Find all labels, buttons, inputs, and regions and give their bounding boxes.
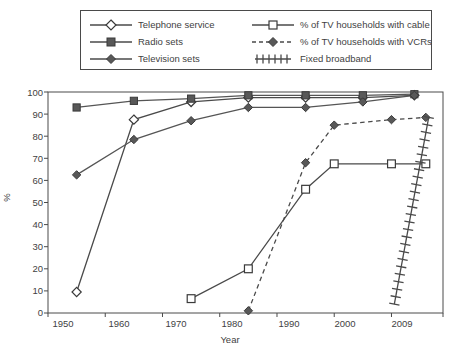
x-tick-label: 2009 (377, 318, 427, 329)
y-axis-label: % (1, 193, 12, 201)
y-tick-label: 0 (17, 307, 43, 318)
legend-column-right: % of TV households with cable % of TV ho… (251, 16, 432, 67)
y-tick-label: 90 (17, 109, 43, 120)
y-tick-label: 60 (17, 175, 43, 186)
y-tick-label: 10 (17, 285, 43, 296)
legend-label: % of TV households with cable (300, 19, 430, 30)
open-square-line-icon (251, 18, 295, 32)
y-tick-label: 30 (17, 241, 43, 252)
legend-label: Telephone service (138, 19, 215, 30)
legend-label: Radio sets (138, 36, 183, 47)
legend-item-radio-sets: Radio sets (89, 33, 215, 50)
x-tick-label: 1950 (38, 318, 88, 329)
open-diamond-line-icon (89, 18, 133, 32)
legend-item-telephone-service: Telephone service (89, 16, 215, 33)
filled-square-line-icon (89, 35, 133, 49)
chart-figure: Telephone service Radio sets (0, 0, 460, 356)
y-tick-label: 70 (17, 153, 43, 164)
x-tick-label: 1980 (207, 318, 257, 329)
y-tick-label: 100 (17, 87, 43, 98)
y-tick-label: 80 (17, 131, 43, 142)
y-tick-label: 50 (17, 197, 43, 208)
y-tick-label: 40 (17, 219, 43, 230)
legend-item-fixed-broadband: Fixed broadband (251, 50, 432, 67)
legend-item-cable: % of TV households with cable (251, 16, 432, 33)
filled-diamond-dashed-line-icon (251, 35, 295, 49)
x-tick-label: 1970 (151, 318, 201, 329)
legend-label: % of TV households with VCRs (300, 36, 432, 47)
filled-diamond-line-icon (89, 52, 133, 66)
x-tick-label: 1990 (264, 318, 314, 329)
y-tick-label: 20 (17, 263, 43, 274)
legend-column-left: Telephone service Radio sets (89, 16, 215, 67)
x-axis-label: Year (0, 334, 460, 345)
legend-label: Fixed broadband (300, 53, 371, 64)
cross-hatch-line-icon (251, 52, 295, 66)
legend-item-television-sets: Television sets (89, 50, 215, 67)
legend-item-vcr: % of TV households with VCRs (251, 33, 432, 50)
legend-label: Television sets (138, 53, 200, 64)
x-tick-label: 1960 (94, 318, 144, 329)
x-tick-label: 2000 (320, 318, 370, 329)
chart-legend: Telephone service Radio sets (80, 10, 432, 70)
